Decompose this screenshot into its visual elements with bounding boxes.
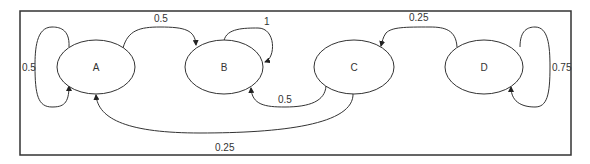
svg-text:0.5: 0.5 — [154, 13, 168, 24]
edge-c-b: 0.5 — [251, 86, 326, 107]
svg-text:1: 1 — [264, 16, 270, 27]
svg-text:0.5: 0.5 — [22, 62, 36, 73]
svg-text:0.25: 0.25 — [215, 142, 235, 153]
edge-a-b: 0.5 — [123, 13, 196, 48]
svg-text:0.75: 0.75 — [552, 62, 572, 73]
svg-text:D: D — [480, 62, 487, 73]
svg-text:0.25: 0.25 — [409, 12, 429, 23]
state-diagram: 0.5 0.5 1 0.5 0.25 0.25 0.75 A B C D — [0, 0, 590, 164]
node-d: D — [445, 40, 523, 94]
node-b: B — [185, 40, 263, 94]
svg-text:0.5: 0.5 — [278, 94, 292, 105]
node-a: A — [57, 40, 135, 94]
svg-text:A: A — [93, 62, 100, 73]
node-c: C — [314, 40, 394, 94]
svg-text:C: C — [350, 62, 357, 73]
svg-text:B: B — [221, 62, 228, 73]
edge-d-c: 0.25 — [381, 12, 457, 47]
